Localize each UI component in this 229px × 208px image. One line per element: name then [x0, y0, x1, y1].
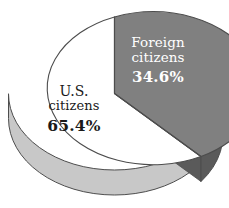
- pie-chart-figure: Foreign citizens 34.6% U.S. citizens 65.…: [0, 0, 229, 208]
- pie-chart-graphic: [0, 0, 229, 208]
